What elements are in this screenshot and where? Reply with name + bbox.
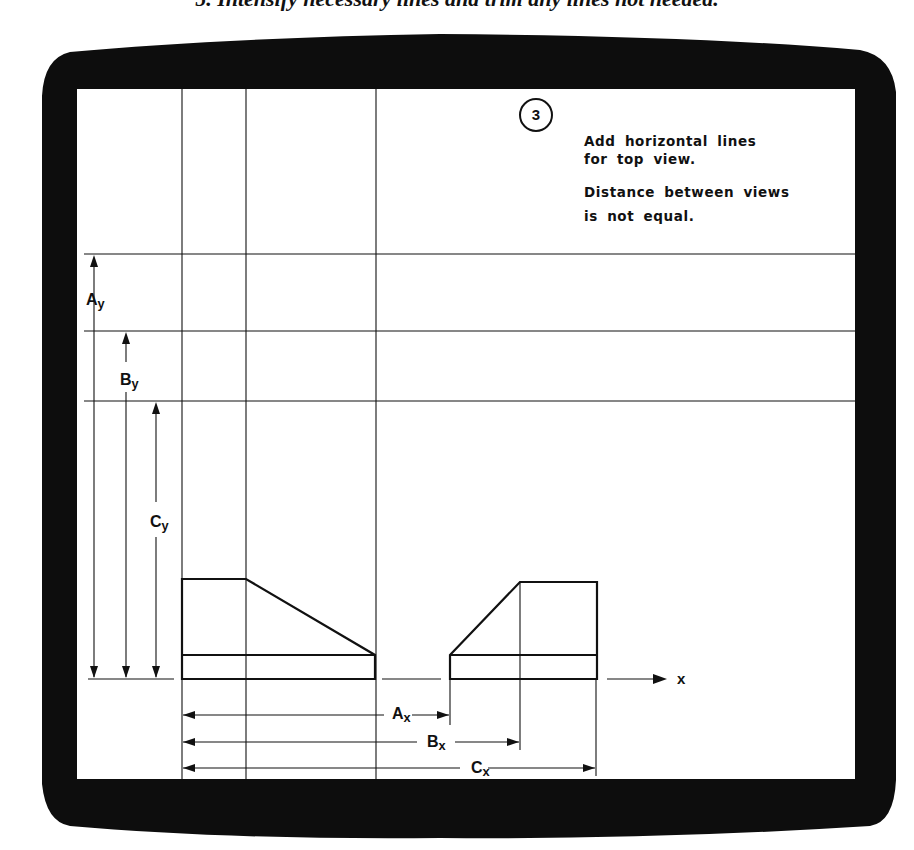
monitor-drawing <box>0 0 914 850</box>
instruction-line-4: is not equal. <box>584 210 695 224</box>
label-bx: Bx <box>427 734 446 753</box>
label-ax: Ax <box>392 706 411 725</box>
step-number-badge: 3 <box>519 98 553 132</box>
instruction-line-3: Distance between views <box>584 186 790 200</box>
label-ay: Ay <box>86 292 105 311</box>
instruction-line-1: Add horizontal lines <box>584 135 756 149</box>
label-cy: Cy <box>150 514 169 533</box>
label-cx: Cx <box>471 760 490 779</box>
label-by: By <box>120 372 139 391</box>
instruction-line-2: for top view. <box>584 153 696 167</box>
axis-label-x: x <box>677 671 685 686</box>
